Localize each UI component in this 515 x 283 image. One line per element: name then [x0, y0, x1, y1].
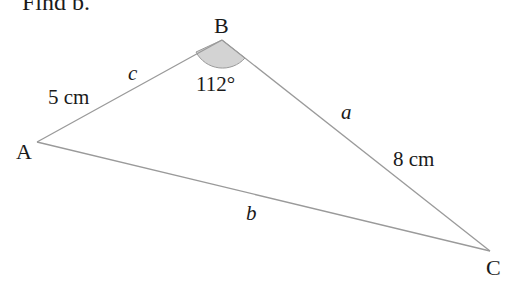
triangle-diagram: Find b. B A C 112° c 5 cm a 8 cm b: [0, 0, 515, 283]
side-b-label: b: [246, 201, 257, 225]
vertex-label-b: B: [214, 13, 229, 38]
angle-b-label: 112°: [196, 72, 235, 96]
vertex-label-c: C: [486, 255, 501, 280]
side-a-label: a: [341, 100, 352, 124]
side-c-label: c: [128, 61, 138, 85]
vertex-label-a: A: [16, 139, 32, 164]
side-a-length: 8 cm: [393, 147, 434, 171]
side-c-length: 5 cm: [48, 85, 89, 109]
angle-b-sector: [196, 40, 245, 68]
prompt-text: Find b.: [22, 0, 90, 15]
